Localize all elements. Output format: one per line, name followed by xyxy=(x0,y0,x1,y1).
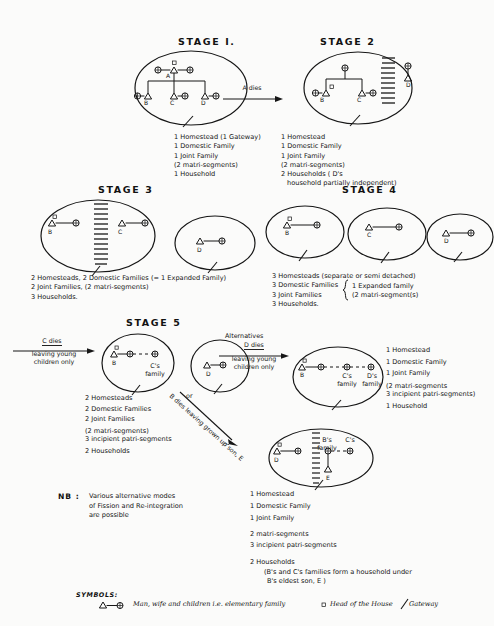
stage-3-title: STAGE 3 xyxy=(98,184,153,195)
stage-5-title: STAGE 5 xyxy=(126,317,181,328)
alt-a-list-item: 1 Homestead xyxy=(386,345,475,357)
arrow-d-dies-caption: leaving young children only xyxy=(219,355,289,372)
stage-1-list-item: 1 Household xyxy=(174,170,261,179)
stage-5-c-family-line2: family xyxy=(142,370,168,378)
alt-b-list-footnote: B's eldest son, E ) xyxy=(250,577,412,586)
stage-1-list-item: 1 Domestic Family xyxy=(174,142,261,151)
triangle-male-icon xyxy=(99,602,106,608)
stage-5-alt-b-node-d-label: D xyxy=(274,456,279,463)
square-head-of-house-icon xyxy=(278,443,281,446)
alt-b-list-footnote: (B's and C's families form a household u… xyxy=(250,568,412,577)
stage-5-alt-a-summary-list: 1 Homestead 1 Domestic Family 1 Joint Fa… xyxy=(386,345,475,413)
stage-4-brace-note-line: 1 Expanded family xyxy=(352,282,418,291)
stage-3-list-item: 2 Joint Families, (2 matri-segments) xyxy=(31,283,226,292)
stage-4-brace-note: 1 Expanded family (2 matri-segment(s) xyxy=(352,282,418,301)
triangle-male-icon xyxy=(299,364,306,370)
alt-a-list-item: 3 incipient patri-segments) xyxy=(386,390,475,398)
stage-1-list-item: 1 Joint Family xyxy=(174,152,261,161)
dashed-partition-icon xyxy=(94,204,108,264)
triangle-male-icon xyxy=(196,238,203,244)
stage-5-left-list-item: 3 incipient patri-segments xyxy=(85,435,172,443)
square-head-of-house-icon xyxy=(173,61,177,65)
triangle-male-icon xyxy=(442,230,449,236)
stage-5-node-b-label: B xyxy=(112,359,116,366)
square-head-of-house-icon xyxy=(322,603,326,607)
alt-a-d-family-line2: family xyxy=(360,380,384,388)
nb-note-line: Various alternative modes xyxy=(89,492,183,502)
stage-2-list-item: 1 Homestead xyxy=(281,133,397,142)
stage-2-diagram xyxy=(296,48,426,128)
stage-5-c-family-line1: C's xyxy=(142,362,168,370)
square-head-of-house-icon xyxy=(330,85,333,88)
stage-2-summary-list: 1 Homestead 1 Domestic Family 1 Joint Fa… xyxy=(281,133,397,189)
triangle-male-icon xyxy=(170,67,177,73)
alt-b-list-item: 2 Households xyxy=(250,556,412,568)
slash-gateway-icon xyxy=(381,252,389,263)
stage-5-alt-b-c-family-label: C's xyxy=(341,436,359,444)
stage-2-list-item: 2 Households ( D's xyxy=(281,170,397,179)
stage-5-alt-b-summary-list: 1 Homestead 1 Domestic Family 1 Joint Fa… xyxy=(250,488,412,586)
triangle-male-icon xyxy=(118,220,125,226)
alt-b-list-item: 2 matri-segments xyxy=(250,530,412,540)
nb-note-line: are possible xyxy=(89,511,183,521)
alt-b-list-item: 1 Domestic Family xyxy=(250,500,412,512)
arrow-c-dies-line2: leaving young xyxy=(14,350,94,358)
stage-5-c-family-label: C's family xyxy=(142,362,168,378)
alt-b-b-family-line1: B's xyxy=(316,436,338,444)
triangle-male-icon xyxy=(204,362,211,368)
stage-2-node-c-label: C xyxy=(357,96,361,103)
stage-1-node-d-label: D xyxy=(201,99,206,106)
stage-1-node-b-label: B xyxy=(144,99,148,106)
legend-gateway-text: Gateway xyxy=(409,600,438,608)
stage-2-node-d-label: D xyxy=(406,81,411,88)
stage-4-node-c-label: C xyxy=(367,231,371,238)
triangle-male-icon xyxy=(274,448,281,454)
slash-gateway-icon xyxy=(332,400,341,410)
stage-2-node-b-label: B xyxy=(320,96,324,103)
stage-1-list-item: 1 Homestead (1 Gateway) xyxy=(174,133,261,142)
legend-elementary-family-icon xyxy=(97,599,131,610)
stage-5-alt-b-node-e-label: E xyxy=(326,474,330,481)
stage-4-brace-icon xyxy=(342,280,352,301)
alt-a-c-family-line2: family xyxy=(335,380,359,388)
square-head-of-house-icon xyxy=(288,217,291,220)
slash-gateway-icon xyxy=(208,262,217,273)
stage-4-diagram xyxy=(255,198,491,278)
arrow-d-dies-line3: children only xyxy=(219,363,289,371)
legend-head-of-house-icon xyxy=(321,601,329,609)
stage-1-node-c-label: C xyxy=(170,99,174,106)
stage-5-left-list-item: 2 Joint Families xyxy=(85,414,172,425)
arrow-a-dies-icon xyxy=(222,95,284,105)
stage-3-node-d-label: D xyxy=(197,246,202,253)
triangle-male-icon xyxy=(283,222,290,228)
stage-3-list-item: 3 Households. xyxy=(31,293,226,302)
alt-a-list-item: (2 matri-segments xyxy=(386,383,475,390)
symbols-heading: SYMBOLS: xyxy=(76,591,118,599)
arrow-c-dies-caption: leaving young children only xyxy=(14,350,94,367)
square-head-of-house-icon xyxy=(53,215,56,218)
stage-2-list-item: 1 Domestic Family xyxy=(281,142,397,151)
stage-5-node-d-label: D xyxy=(206,370,211,377)
stage-5-left-summary-list: 2 Homesteads 2 Domestic Families 2 Joint… xyxy=(85,393,172,457)
legend-head-of-house-text: Head of the House xyxy=(330,600,393,608)
slash-gateway-icon xyxy=(299,250,307,261)
stage-4-node-b-label: B xyxy=(285,229,289,236)
stage-4-node-d-label: D xyxy=(444,237,449,244)
alt-b-list-item: 1 Joint Family xyxy=(250,512,412,524)
stage-1-title: STAGE I. xyxy=(178,36,235,47)
alt-a-list-item: 1 Joint Family xyxy=(386,368,475,380)
nb-note-line: of Fission and Re-integration xyxy=(89,502,183,512)
arrow-c-dies-line3: children only xyxy=(14,358,94,366)
nb-note: Various alternative modes of Fission and… xyxy=(89,492,183,521)
stage-4-title: STAGE 4 xyxy=(342,184,397,195)
stage-5-alt-a-c-family-label: C's family xyxy=(335,372,359,388)
triangle-male-icon xyxy=(365,224,372,230)
alt-b-b-family-line2: family xyxy=(316,444,338,452)
stage-1-list-item: (2 matri-segments) xyxy=(174,161,261,170)
stage-3-node-b-label: B xyxy=(48,228,52,235)
legend-elementary-family-text: Man, wife and children i.e. elementary f… xyxy=(133,600,285,608)
square-head-of-house-icon xyxy=(303,359,306,362)
alt-a-list-item: 1 Household xyxy=(386,401,475,413)
arrow-c-dies-label: C dies xyxy=(42,337,61,346)
stage-5-alt-a-node-b-label: B xyxy=(300,371,304,378)
